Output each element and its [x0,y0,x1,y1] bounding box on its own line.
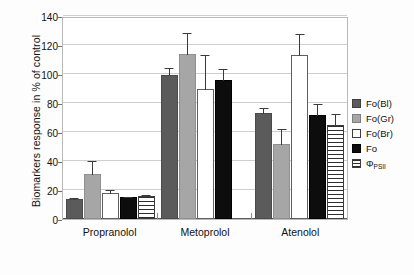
error-bar-stem [92,161,93,176]
error-bar [124,197,133,198]
legend-item-0: Fo(Bl) [352,96,414,111]
error-bar-cap [124,197,133,198]
error-bar-cap [183,33,192,34]
bar-propranolol-2 [102,193,119,219]
bar-propranolol-1 [84,174,101,219]
y-axis-tick-label: 20 [28,186,58,197]
bar-slot [66,18,83,219]
legend-item-label: Fo(Gr) [366,113,394,124]
error-bar [88,161,97,176]
x-axis-tick-label: Metoprolol [157,226,252,238]
error-bar-stem [317,104,318,116]
y-axis-tick-label: 0 [28,215,58,226]
error-bar-stem [299,34,300,56]
bar-slot [138,18,155,219]
error-bar-cap [70,198,79,199]
legend-item-label: ΦPSII [366,158,386,169]
error-bar [165,68,174,77]
bar-slot [179,18,196,219]
error-bar-cap [295,34,304,35]
bar-slot [161,18,178,219]
error-bar-cap [331,114,340,115]
legend-swatch-icon [352,99,361,108]
error-bar-stem [169,68,170,77]
error-bar-stem [223,69,224,81]
chart-legend: Fo(Bl)Fo(Gr)Fo(Br)FoΦPSII [352,96,414,171]
error-bar-cap [259,108,268,109]
bar-slot [273,18,290,219]
plot-area [62,17,348,220]
error-bar-stem [335,114,336,126]
error-bar [259,108,268,114]
bar-group-metoprolol [158,18,253,219]
bar-slot [84,18,101,219]
bar-chart-figure: Biomarkers response in % of control 0204… [0,0,414,275]
legend-swatch-icon [352,159,361,168]
bar-atenolol-1 [273,144,290,219]
legend-item-4: ΦPSII [352,156,414,171]
error-bar-cap [142,195,151,196]
bar-slot [309,18,326,219]
error-bar-stem [281,129,282,145]
bar-group-atenolol [252,18,347,219]
error-bar-stem [187,33,188,55]
bar-atenolol-0 [255,113,272,219]
y-axis-tick-label: 60 [28,128,58,139]
bar-propranolol-0 [66,199,83,219]
bar-metoprolol-0 [161,75,178,219]
bar-group-propranolol [63,18,158,219]
y-axis-tick-label: 80 [28,99,58,110]
error-bar-cap [201,55,210,56]
legend-item-2: Fo(Br) [352,126,414,141]
bar-metoprolol-1 [179,54,196,219]
error-bar [295,34,304,56]
bar-slot [197,18,214,219]
legend-swatch-icon [352,114,361,123]
bar-slot [120,18,137,219]
legend-item-1: Fo(Gr) [352,111,414,126]
bar-slot [255,18,272,219]
legend-swatch-icon [352,144,361,153]
y-axis-tick-mark [57,220,62,221]
error-bar-cap [165,68,174,69]
y-axis-tick-label: 120 [28,41,58,52]
error-bar [277,129,286,145]
legend-item-label: Fo(Bl) [366,98,392,109]
bar-metoprolol-3 [215,80,232,219]
bar-atenolol-3 [309,115,326,219]
error-bar-cap [313,104,322,105]
bar-slot [215,18,232,219]
y-axis-tick-label: 100 [28,70,58,81]
bar-slot [291,18,308,219]
legend-item-label: Fo(Br) [366,128,393,139]
legend-item-3: Fo [352,141,414,156]
bar-atenolol-4 [327,125,344,219]
error-bar-cap [219,69,228,70]
error-bar-stem [205,55,206,90]
gridline [63,15,347,16]
error-bar-cap [106,190,115,191]
error-bar [70,198,79,199]
error-bar [313,104,322,116]
bar-groups [63,18,347,219]
y-axis-tick-label: 140 [28,12,58,23]
error-bar [106,190,115,194]
x-axis-tick-label: Atenolol [253,226,348,238]
bar-slot [102,18,119,219]
bar-slot [327,18,344,219]
bar-atenolol-2 [291,55,308,219]
legend-item-label: Fo [366,143,377,154]
bar-slot [233,18,250,219]
x-axis-tick-label: Propranolol [62,226,157,238]
bar-propranolol-3 [120,197,137,219]
bar-propranolol-4 [138,196,155,219]
y-axis-tick-label: 40 [28,157,58,168]
error-bar-cap [277,129,286,130]
legend-swatch-icon [352,129,361,138]
error-bar [142,195,151,196]
error-bar [183,33,192,55]
error-bar [201,55,210,90]
error-bar [219,69,228,81]
error-bar [331,114,340,126]
error-bar-cap [88,161,97,162]
